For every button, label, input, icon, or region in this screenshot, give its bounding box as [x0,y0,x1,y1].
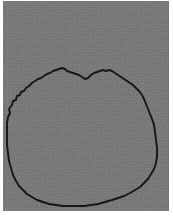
segmentation-boundary-path [7,68,157,206]
image-viewer [0,0,173,217]
image-frame [3,1,169,211]
contour-overlay [3,1,169,211]
